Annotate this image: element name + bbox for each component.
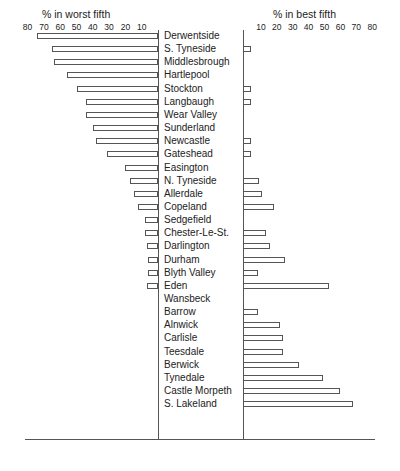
worst-fifth-bar	[77, 86, 159, 92]
best-fifth-bar	[243, 230, 266, 236]
left-tick-label: 10	[137, 22, 146, 32]
best-fifth-bar	[243, 46, 251, 52]
worst-fifth-bar	[147, 283, 158, 289]
category-label: Castle Morpeth	[164, 385, 232, 397]
left-axis-title: % in worst fifth	[42, 8, 110, 20]
best-fifth-bar	[243, 178, 259, 184]
baseline	[25, 439, 375, 440]
left-tick-label: 20	[121, 22, 130, 32]
category-label: Wear Valley	[164, 109, 217, 121]
right-tick-label: 30	[288, 22, 297, 32]
category-label: Sedgefield	[164, 214, 211, 226]
best-fifth-bar	[243, 151, 251, 157]
category-label: Durham	[164, 254, 200, 266]
worst-fifth-bar	[147, 243, 158, 249]
best-fifth-bar	[243, 138, 251, 144]
worst-fifth-bar	[67, 72, 158, 78]
worst-fifth-bar	[93, 125, 158, 131]
category-label: Darlington	[164, 240, 210, 252]
best-fifth-bar	[243, 335, 283, 341]
category-label: Wansbeck	[164, 293, 210, 305]
category-label: Easington	[164, 162, 208, 174]
worst-fifth-bar	[86, 99, 158, 105]
category-label: Middlesbrough	[164, 56, 230, 68]
category-label: S. Lakeland	[164, 398, 217, 410]
best-fifth-bar	[243, 309, 258, 315]
category-label: Sunderland	[164, 122, 215, 134]
worst-fifth-bar	[148, 270, 158, 276]
worst-fifth-bar	[54, 59, 158, 65]
left-tick-label: 70	[39, 22, 48, 32]
best-fifth-bar	[243, 257, 285, 263]
worst-fifth-bar	[96, 138, 158, 144]
left-tick-label: 60	[55, 22, 64, 32]
worst-fifth-bar	[148, 257, 158, 263]
left-tick-label: 30	[104, 22, 113, 32]
category-label: Stockton	[164, 83, 203, 95]
category-label: Carlisle	[164, 332, 197, 344]
category-label: Teesdale	[164, 346, 204, 358]
best-fifth-bar	[243, 375, 323, 381]
category-label: Newcastle	[164, 135, 210, 147]
worst-fifth-bar	[130, 178, 158, 184]
worst-fifth-bar	[52, 46, 158, 52]
best-fifth-bar	[243, 349, 283, 355]
left-axis-line	[158, 30, 159, 440]
worst-fifth-bar	[145, 217, 158, 223]
best-fifth-bar	[243, 86, 251, 92]
worst-fifth-bar	[107, 151, 158, 157]
category-label: N. Tyneside	[164, 175, 217, 187]
right-tick-label: 50	[320, 22, 329, 32]
category-label: Hartlepool	[164, 69, 210, 81]
right-tick-label: 40	[304, 22, 313, 32]
category-label: Derwentside	[164, 30, 220, 42]
category-label: Alnwick	[164, 319, 198, 331]
best-fifth-bar	[243, 204, 274, 210]
left-tick-label: 50	[72, 22, 81, 32]
left-tick-label: 80	[23, 22, 32, 32]
category-label: Tynedale	[164, 372, 205, 384]
category-label: Barrow	[164, 306, 196, 318]
worst-fifth-bar	[37, 33, 158, 39]
worst-fifth-bar	[86, 112, 158, 118]
best-fifth-bar	[243, 362, 299, 368]
best-fifth-bar	[243, 270, 258, 276]
category-label: Langbaugh	[164, 96, 214, 108]
right-tick-label: 80	[367, 22, 376, 32]
best-fifth-bar	[243, 191, 262, 197]
best-fifth-bar	[243, 99, 251, 105]
right-tick-label: 10	[256, 22, 265, 32]
best-fifth-bar	[243, 388, 340, 394]
category-label: S. Tyneside	[164, 43, 216, 55]
category-label: Copeland	[164, 201, 207, 213]
category-label: Blyth Valley	[164, 267, 216, 279]
left-tick-label: 40	[88, 22, 97, 32]
worst-fifth-bar	[145, 230, 158, 236]
category-label: Eden	[164, 280, 187, 292]
right-tick-label: 70	[352, 22, 361, 32]
worst-fifth-bar	[125, 165, 158, 171]
best-fifth-bar	[243, 283, 329, 289]
category-label: Gateshead	[164, 148, 213, 160]
best-fifth-bar	[243, 243, 270, 249]
worst-fifth-bar	[134, 191, 158, 197]
right-tick-label: 20	[272, 22, 281, 32]
category-label: Allerdale	[164, 188, 203, 200]
best-fifth-bar	[243, 322, 280, 328]
category-label: Berwick	[164, 359, 199, 371]
right-axis-title: % in best fifth	[273, 8, 336, 20]
category-label: Chester-Le-St.	[164, 227, 229, 239]
worst-fifth-bar	[138, 204, 158, 210]
right-tick-label: 60	[336, 22, 345, 32]
best-fifth-bar	[243, 401, 353, 407]
